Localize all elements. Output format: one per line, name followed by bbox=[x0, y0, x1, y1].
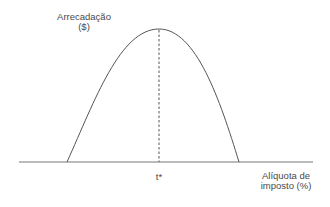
x-axis-label: Alíquota de imposto (%) bbox=[248, 171, 324, 191]
y-axis-label: Arrecadação ($) bbox=[48, 12, 120, 32]
y-axis-label-line2: ($) bbox=[48, 22, 120, 32]
optimum-rate-label: t* bbox=[150, 172, 168, 182]
laffer-curve bbox=[67, 29, 239, 162]
x-axis-label-line2: imposto (%) bbox=[248, 181, 324, 191]
